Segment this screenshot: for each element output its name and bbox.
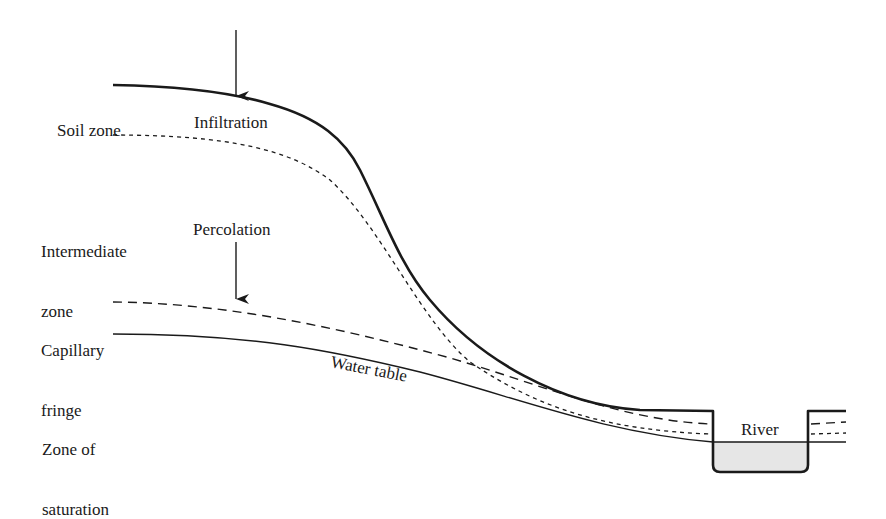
intermediate-zone-label-line-1: Intermediate — [41, 242, 127, 262]
percolation-label: Percolation — [193, 220, 270, 240]
infiltration-label: Infiltration — [194, 113, 268, 133]
zone-of-saturation-label: Zone of saturation — [42, 400, 109, 519]
soil-zone-boundary-line — [113, 135, 710, 434]
water-table-label: Water table — [329, 352, 409, 385]
capillary-fringe-label-line-1: Capillary — [41, 341, 104, 361]
river-label: River — [741, 420, 779, 440]
capillary-fringe-line — [113, 302, 710, 424]
capillary-fringe-line-right — [811, 422, 846, 424]
ground-surface-line — [113, 85, 846, 472]
river-water — [713, 442, 808, 472]
zone-of-saturation-label-line-1: Zone of — [42, 440, 109, 460]
soil-zone-label-line-1: Soil zone — [57, 121, 121, 140]
water-table-line — [113, 334, 846, 442]
zone-of-saturation-label-line-2: saturation — [42, 500, 109, 519]
soil-zone-label: Soil zone — [40, 101, 121, 161]
soil-zone-boundary-line-right — [811, 433, 846, 434]
